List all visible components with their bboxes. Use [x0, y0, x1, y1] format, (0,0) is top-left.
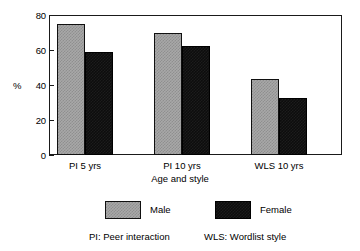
bar-male-wls-10-yrs: [251, 79, 279, 155]
y-tick-label-80: 80: [20, 11, 46, 21]
bar-male-pi-5-yrs: [57, 24, 85, 155]
legend-item-male: Male: [105, 200, 171, 220]
legend-label-male: Male: [150, 205, 171, 215]
y-axis-label: %: [13, 81, 21, 91]
footnote-pi-abbreviation: PI: Peer interaction: [89, 231, 170, 242]
y-tick-mark-20: [49, 120, 54, 121]
bar-female-pi-10-yrs: [182, 46, 210, 155]
x-tick-label-pi-10-yrs: PI 10 yrs: [142, 160, 222, 171]
legend-swatch-female-icon: [215, 201, 251, 219]
x-tick-label-wls-10-yrs: WLS 10 yrs: [239, 160, 319, 171]
y-tick-label-60: 60: [20, 46, 46, 56]
bar-chart-figure: 80 60 40 20 0 % PI 5 yrs PI 10 yrs WLS 1…: [0, 0, 360, 251]
legend-swatch-male-icon: [105, 201, 141, 219]
bar-female-pi-5-yrs: [85, 52, 113, 155]
chart-footnote: PI: Peer interaction WLS: Wordlist style: [0, 231, 360, 245]
x-tick-label-pi-5-yrs: PI 5 yrs: [45, 160, 125, 171]
y-tick-label-40: 40: [20, 81, 46, 91]
y-tick-mark-0: [49, 155, 54, 156]
legend-item-female: Female: [215, 200, 292, 220]
bar-female-wls-10-yrs: [279, 98, 307, 155]
y-tick-label-0: 0: [20, 151, 46, 161]
x-axis-title: Age and style: [0, 173, 360, 184]
bar-male-pi-10-yrs: [154, 33, 182, 156]
chart-legend: Male Female: [0, 200, 360, 222]
y-tick-mark-60: [49, 50, 54, 51]
legend-label-female: Female: [260, 205, 292, 215]
y-tick-mark-40: [49, 85, 54, 86]
y-tick-mark-80: [49, 15, 54, 16]
y-tick-label-20: 20: [20, 116, 46, 126]
footnote-wls-abbreviation: WLS: Wordlist style: [204, 231, 286, 242]
